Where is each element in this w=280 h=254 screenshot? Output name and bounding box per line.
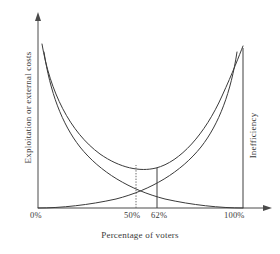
y2-axis-title: Inefficiency: [248, 81, 259, 191]
chart-figure: 0% 50% 62% 100% Percentage of voters Exp…: [0, 0, 280, 254]
series-total-costs-curve: [42, 44, 243, 169]
x-axis-arrow-icon: [263, 205, 272, 211]
series-decision-costs-curve: [38, 52, 237, 208]
y-axis-arrow-icon: [35, 12, 41, 21]
x-tick-label-62: 62%: [151, 210, 167, 220]
x-tick-label-50: 50%: [124, 210, 140, 220]
x-tick-label-0: 0%: [30, 210, 42, 220]
y-axis-title: Exploitation or external costs: [23, 28, 34, 188]
series-external-costs-curve: [44, 52, 243, 208]
x-tick-label-100: 100%: [224, 210, 245, 220]
x-axis-title: Percentage of voters: [0, 230, 280, 241]
